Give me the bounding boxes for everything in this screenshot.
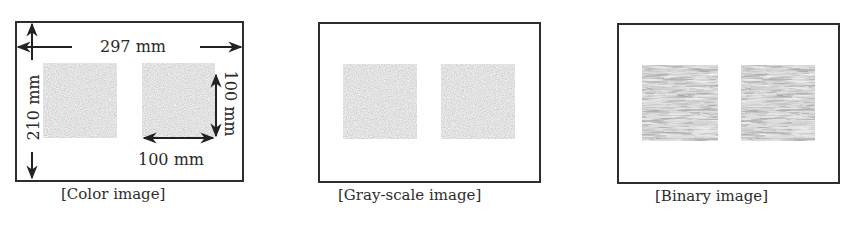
square-width-label: 100 mm bbox=[138, 150, 204, 169]
gray-left-square bbox=[343, 64, 417, 139]
binary-right-square bbox=[741, 65, 815, 141]
binary-left-square bbox=[642, 65, 718, 141]
color-image-caption: [Color image] bbox=[61, 185, 165, 203]
width-label: 297 mm bbox=[100, 37, 166, 56]
gray-right-square bbox=[441, 64, 515, 139]
gray-image-caption: [Gray-scale image] bbox=[338, 186, 481, 204]
square-height-label: 100 mm bbox=[221, 70, 240, 138]
binary-image-caption: [Binary image] bbox=[655, 187, 768, 205]
height-label: 210 mm bbox=[24, 74, 43, 142]
